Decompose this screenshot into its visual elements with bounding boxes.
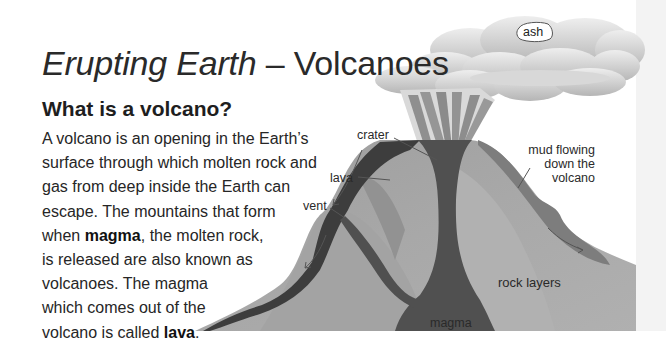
text-run: is released are also known as	[42, 251, 253, 268]
text-run: which comes out of the	[42, 299, 206, 316]
paragraph-line: which comes out of the	[42, 296, 322, 320]
label-vent: vent	[303, 199, 327, 213]
paragraph-line: surface through which molten rock and	[42, 151, 322, 175]
paragraph-line: volcano is called lava.	[42, 321, 322, 342]
text-run: volcano is called	[42, 324, 164, 341]
label-rock-layers: rock layers	[498, 276, 561, 290]
text-run: A volcano is an opening in the Earth’s	[42, 130, 309, 147]
paragraph-line: gas from deep inside the Earth can	[42, 175, 322, 199]
text-run: , the molten rock,	[141, 227, 264, 244]
title-rest: – Volcanoes	[257, 44, 449, 82]
text-run: gas from deep inside the Earth can	[42, 178, 290, 195]
bold-term: lava	[164, 324, 195, 341]
paragraph-line: volcanoes. The magma	[42, 272, 322, 296]
section-heading: What is a volcano?	[42, 97, 232, 121]
label-crater: crater	[357, 128, 389, 142]
label-mud-line-2: down the	[520, 157, 595, 171]
label-mud-line-1: mud flowing	[520, 143, 595, 157]
text-run: when	[42, 227, 85, 244]
text-run: .	[195, 324, 199, 341]
text-run: surface through which molten rock and	[42, 154, 317, 171]
paragraph-line: is released are also known as	[42, 248, 322, 272]
label-lava: lava	[330, 171, 353, 185]
label-mud-flow: mud flowing down the volcano	[520, 143, 595, 185]
text-run: escape. The mountains that form	[42, 203, 276, 220]
bold-term: magma	[85, 227, 141, 244]
paragraph-line: A volcano is an opening in the Earth’s	[42, 127, 322, 151]
label-mud-line-3: volcano	[520, 171, 595, 185]
label-magma: magma	[430, 316, 472, 330]
paragraph-line: when magma, the molten rock,	[42, 224, 322, 248]
label-ash: ash	[523, 25, 543, 39]
text-run: volcanoes. The magma	[42, 275, 208, 292]
intro-paragraph: A volcano is an opening in the Earth’ssu…	[42, 127, 322, 342]
paragraph-line: escape. The mountains that form	[42, 200, 322, 224]
title-italic: Erupting Earth	[42, 44, 257, 82]
page-title: Erupting Earth – Volcanoes	[42, 44, 449, 83]
